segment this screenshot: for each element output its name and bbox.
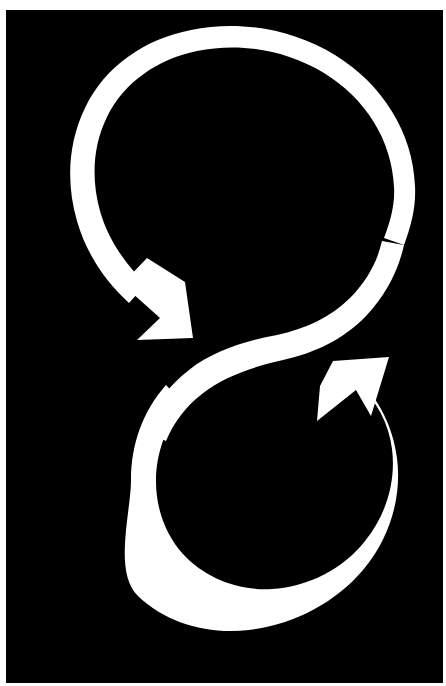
image-title: Cyclic double arrow symbol — [0, 0, 1, 1]
upper-loop-label: upper circular arrow — [0, 0, 1, 1]
s-curve-connector-path — [143, 241, 404, 441]
connector-label: s-curve crossover — [0, 0, 1, 1]
lower-loop-label: lower circular arrow — [0, 0, 1, 1]
image-canvas: Two interlocking circular arrows forming… — [0, 0, 446, 686]
upper-loop-ring-path — [70, 26, 415, 303]
black-plate-background — [6, 10, 443, 683]
image-alt-text: Two interlocking circular arrows forming… — [0, 0, 1, 1]
lower-arrowhead — [317, 357, 389, 421]
lower-loop-ring-path — [125, 376, 398, 631]
cycle-arrows-illustration — [6, 10, 443, 683]
